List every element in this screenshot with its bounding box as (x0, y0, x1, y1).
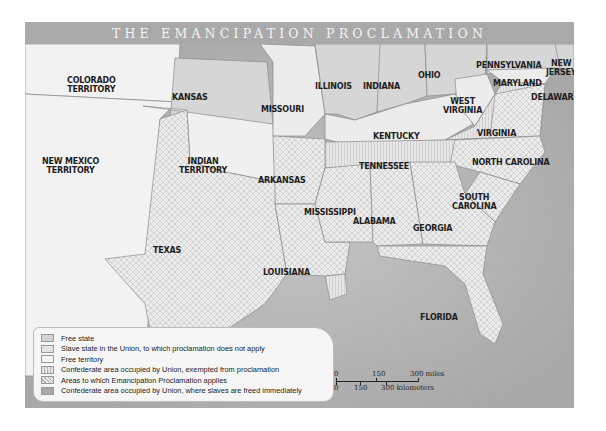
slave-state-swatch (41, 345, 54, 353)
map-frame: THE EMANCIPATION PROCLAMATION (25, 22, 574, 408)
label-maryland: MARYLAND (493, 79, 542, 88)
scale-bar: 0 150 300 miles 0 150 300 kilometers (334, 370, 484, 408)
label-texas: TEXAS (153, 246, 181, 255)
label-indiana: INDIANA (363, 82, 400, 91)
free-territory-swatch (41, 355, 54, 363)
label-arkansas: ARKANSAS (258, 176, 306, 185)
label-ohio: OHIO (418, 71, 440, 80)
label-virginia: VIRGINIA (477, 129, 516, 138)
label-north-carolina: NORTH CAROLINA (472, 158, 549, 167)
free-state-swatch (41, 334, 54, 342)
legend-item-free-state: Free state (41, 333, 333, 344)
legend-item-exempted: Confederate area occupied by Union, exem… (41, 365, 333, 376)
label-kansas: KANSAS (172, 93, 208, 102)
proclamation-swatch (41, 376, 54, 384)
label-tennessee: TENNESSEE (359, 162, 409, 171)
label-south-carolina: SOUTH CAROLINA (452, 193, 496, 211)
map-title: THE EMANCIPATION PROCLAMATION (112, 26, 487, 41)
freed-immediately-swatch (41, 387, 54, 395)
legend-item-freed-immediately: Confederate area occupied by Union, wher… (41, 386, 333, 397)
mississippi (315, 164, 373, 242)
label-colorado: COLORADO TERRITORY (67, 76, 115, 94)
label-florida: FLORIDA (420, 313, 458, 322)
label-indian-territory: INDIAN TERRITORY (179, 157, 227, 175)
label-new-jersey: NEW JERSEY (546, 59, 574, 77)
label-west-virginia: WEST VIRGINIA (443, 97, 482, 115)
label-mississippi: MISSISSIPPI (304, 208, 356, 217)
label-kentucky: KENTUCKY (373, 132, 420, 141)
exempted-swatch (41, 366, 54, 374)
legend-item-free-territory: Free territory (41, 354, 333, 365)
legend-item-slave-state: Slave state in the Union, to which procl… (41, 344, 333, 355)
label-illinois: ILLINOIS (315, 82, 352, 91)
label-missouri: MISSOURI (261, 105, 304, 114)
arkansas (273, 136, 325, 204)
title-bar: THE EMANCIPATION PROCLAMATION (25, 22, 574, 44)
map-legend: Free state Slave state in the Union, to … (33, 327, 334, 402)
label-louisiana: LOUISIANA (263, 268, 310, 277)
label-delaware: DELAWARE (531, 93, 574, 102)
label-alabama: ALABAMA (353, 217, 396, 226)
scale-line (336, 381, 418, 382)
legend-item-proclamation-applies: Areas to which Emancipation Proclamation… (41, 375, 333, 386)
label-georgia: GEORGIA (413, 224, 452, 233)
label-pennsylvania: PENNSYLVANIA (476, 61, 542, 70)
label-new-mexico: NEW MEXICO TERRITORY (42, 157, 99, 175)
